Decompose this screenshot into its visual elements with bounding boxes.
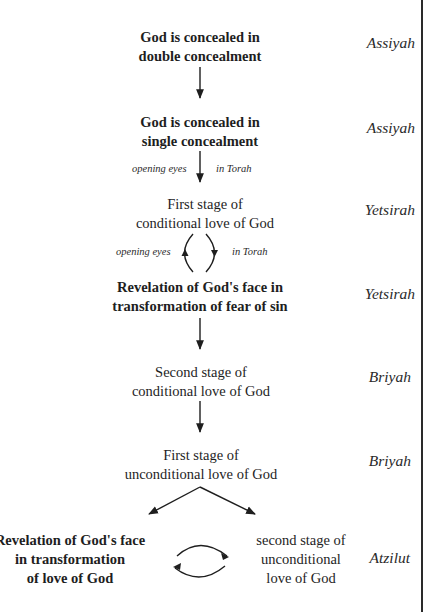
world-label-assiyah: Assiyah [367,119,415,137]
arrowhead-left-icon [173,563,181,570]
cycle-arc-down-icon [206,234,215,272]
cycle-arc-right-icon [177,546,227,557]
diagonal-arrow-right-icon [200,487,255,514]
node-text-line: First stage of [136,195,274,214]
node-first-stage-conditional-love: First stage of conditional love of God [136,195,274,233]
node-second-stage-conditional-love: Second stage of conditional love of God [132,363,270,401]
cycle-arc-up-icon [185,234,194,272]
node-text-line: in transformation [0,550,145,569]
world-label-yetsirah: Yetsirah [365,201,415,219]
node-text-line: transformation of fear of sin [112,297,287,316]
world-label-briyah: Briyah [369,452,411,470]
node-text-line: single concealment [140,132,260,151]
world-label-briyah: Briyah [369,368,411,386]
edge-label-opening-eyes: opening eyes [116,246,171,257]
arrowhead-up-icon [182,249,189,256]
arrowhead-down-icon [211,250,218,257]
node-text-line: Revelation of God's face [0,531,145,550]
node-double-concealment: God is concealed in double concealment [139,28,262,66]
node-text-line: double concealment [139,47,262,66]
node-second-stage-unconditional-love: second stage of unconditional love of Go… [256,531,345,588]
right-border-rule [421,0,423,612]
node-text-line: God is concealed in [139,28,262,47]
node-text-line: love of God [256,569,345,588]
node-revelation-fear-of-sin: Revelation of God's face in transformati… [112,278,287,316]
node-revelation-love-of-god: Revelation of God's face in transformati… [0,531,145,588]
node-single-concealment: God is concealed in single concealment [140,113,260,151]
node-text-line: unconditional [256,550,345,569]
node-text-line: First stage of [125,446,278,465]
node-text-line: of love of God [0,569,145,588]
world-label-yetsirah: Yetsirah [365,285,415,303]
node-text-line: Second stage of [132,363,270,382]
edge-label-opening-eyes: opening eyes [132,163,187,174]
world-label-atzilut: Atzilut [370,549,410,567]
node-first-stage-unconditional-love: First stage of unconditional love of God [125,446,278,484]
node-text-line: second stage of [256,531,345,550]
arrowhead-right-icon [221,553,229,560]
diagonal-arrow-left-icon [149,487,200,514]
node-text-line: unconditional love of God [125,465,278,484]
node-text-line: conditional love of God [136,214,274,233]
node-text-line: conditional love of God [132,382,270,401]
cycle-arc-left-icon [175,566,225,577]
world-label-assiyah: Assiyah [367,34,415,52]
edge-label-in-torah: in Torah [232,246,268,257]
node-text-line: Revelation of God's face in [112,278,287,297]
node-text-line: God is concealed in [140,113,260,132]
edge-label-in-torah: in Torah [216,163,252,174]
